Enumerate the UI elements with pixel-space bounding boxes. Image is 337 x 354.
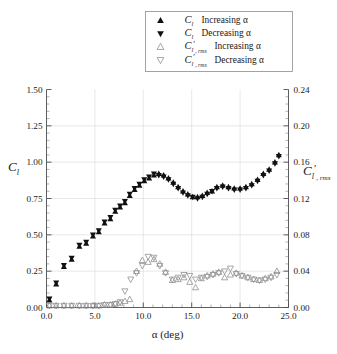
- x-tick-label: 10.0: [135, 311, 151, 321]
- legend-label: Decreasing α: [202, 28, 252, 38]
- y-right-tick-label: 0.20: [294, 121, 310, 131]
- x-tick-label: 5.0: [89, 311, 101, 321]
- legend-label: Decreasing α: [215, 55, 265, 65]
- y-left-tick-label: 1.50: [26, 85, 42, 95]
- y-right-tick-label: 0.04: [294, 266, 310, 276]
- chart-legend: ClIncreasing αClDecreasing αCl′, rmsIncr…: [146, 12, 293, 72]
- figure-container: 0.05.010.015.020.025.00.000.250.500.751.…: [0, 0, 337, 354]
- legend-label: Increasing α: [215, 41, 261, 51]
- y-right-tick-label: 0.24: [294, 85, 310, 95]
- y-left-tick-label: 0.25: [26, 266, 42, 276]
- y-left-tick-label: 0.50: [26, 230, 42, 240]
- y-left-tick-label: 0.75: [26, 194, 42, 204]
- legend-label: Increasing α: [202, 15, 248, 25]
- x-tick-label: 0.0: [41, 311, 53, 321]
- y-left-tick-label: 1.00: [26, 157, 42, 167]
- chart-scatter-lift-coefficient: 0.05.010.015.020.025.00.000.250.500.751.…: [0, 0, 337, 354]
- y-left-tick-label: 1.25: [26, 121, 42, 131]
- y-right-tick-label: 0.00: [294, 303, 310, 313]
- y-right-tick-label: 0.08: [294, 230, 310, 240]
- x-tick-label: 20.0: [232, 311, 248, 321]
- x-tick-label: 15.0: [184, 311, 200, 321]
- y-left-tick-label: 0.00: [26, 303, 42, 313]
- x-axis-title: α (deg): [152, 328, 184, 341]
- y-right-tick-label: 0.12: [294, 194, 310, 204]
